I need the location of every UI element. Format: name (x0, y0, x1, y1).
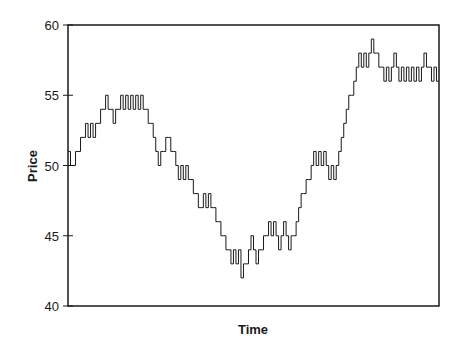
y-tick-label: 50 (45, 159, 59, 174)
x-axis-title: Time (238, 322, 268, 337)
y-axis-title: Price (25, 150, 40, 182)
price-chart: 4045505560 Time Price (0, 0, 464, 345)
price-step-line (68, 39, 439, 278)
y-tick-label: 55 (45, 88, 59, 103)
y-tick-label: 45 (45, 229, 59, 244)
y-tick-label: 40 (45, 299, 59, 314)
y-tick-label: 60 (45, 18, 59, 33)
